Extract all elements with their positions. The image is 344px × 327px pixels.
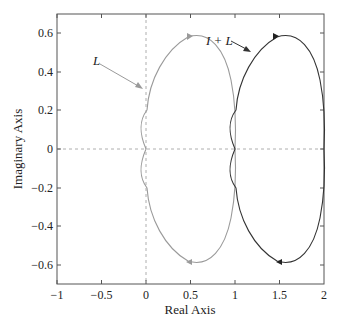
annotation-L-arrow <box>100 64 140 87</box>
annotation-IL-arrowhead <box>243 46 251 52</box>
x-tick-label: 1 <box>232 288 238 302</box>
y-tick-label: 0 <box>47 142 53 156</box>
x-tick-label: 2 <box>321 288 327 302</box>
y-tick-label: 0.4 <box>38 65 53 79</box>
annotation-L-arrowhead <box>135 82 143 89</box>
x-tick-label: 0 <box>143 288 149 302</box>
annotation-I-plus-L: I + L <box>205 33 233 48</box>
x-tick-label: 1.5 <box>272 288 287 302</box>
arrowhead-IL-bottom <box>276 259 282 265</box>
annotation-L: L <box>92 53 100 68</box>
x-tick-label: −1 <box>51 288 64 302</box>
arrowhead-L-top <box>187 33 193 40</box>
y-axis-label: Imaginary Axis <box>10 109 25 190</box>
y-tick-label: −0.6 <box>31 258 53 272</box>
x-axis-label: Real Axis <box>165 302 216 317</box>
y-tick-label: 0.6 <box>38 26 53 40</box>
y-tick-label: −0.2 <box>31 181 53 195</box>
y-tick-label: 0.2 <box>38 103 53 117</box>
x-tick-labels: −1 −0.5 0 0.5 1 1.5 2 <box>51 288 327 302</box>
y-tick-label: −0.4 <box>31 219 53 233</box>
arrowhead-IL-top <box>273 33 279 40</box>
x-tick-label: −0.5 <box>91 288 113 302</box>
nyquist-chart: −1 −0.5 0 0.5 1 1.5 2 0.6 0.4 0.2 0 −0.2… <box>0 0 344 327</box>
x-tick-label: 0.5 <box>183 288 198 302</box>
y-tick-labels: 0.6 0.4 0.2 0 −0.2 −0.4 −0.6 <box>31 26 53 272</box>
